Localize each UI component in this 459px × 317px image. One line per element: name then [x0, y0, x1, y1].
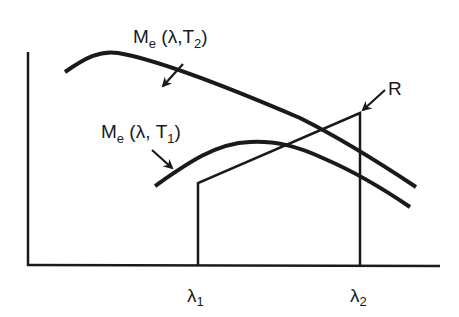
arrow-me-t1: [152, 150, 172, 168]
spectral-diagram: Me (λ,T2) Me (λ, T1) R λ1 λ2: [0, 0, 459, 317]
label-r: R: [388, 78, 402, 99]
curve-me-t1: [155, 142, 410, 207]
x-axis: [27, 265, 440, 266]
label-me-t2: Me (λ,T2): [133, 26, 208, 51]
arrow-r: [363, 90, 385, 110]
tick-lambda-2: λ2: [350, 285, 367, 309]
label-me-t1: Me (λ, T1): [101, 121, 181, 146]
curve-me-t2: [65, 52, 416, 187]
tick-lambda-1: λ1: [187, 285, 204, 309]
